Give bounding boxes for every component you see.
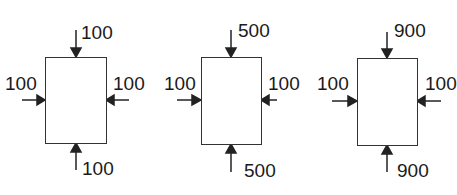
element-box bbox=[201, 57, 262, 145]
right-load-label: 100 bbox=[268, 74, 300, 93]
element-box bbox=[357, 58, 418, 146]
right-load-label: 100 bbox=[425, 74, 457, 93]
left-load-label: 100 bbox=[317, 74, 349, 93]
element-box bbox=[45, 57, 107, 144]
bottom-load-label: 500 bbox=[244, 161, 276, 180]
bottom-load-label: 100 bbox=[82, 159, 114, 178]
panel-2: 500 100 100 500 bbox=[152, 0, 304, 195]
left-load-label: 100 bbox=[164, 74, 196, 93]
top-load-label: 100 bbox=[81, 23, 113, 42]
right-load-label: 100 bbox=[113, 74, 145, 93]
panel-3: 900 100 100 900 bbox=[304, 0, 457, 195]
panel-1: 100 100 100 100 bbox=[0, 0, 152, 195]
bottom-load-label: 900 bbox=[397, 161, 429, 180]
left-load-label: 100 bbox=[5, 74, 37, 93]
top-load-label: 900 bbox=[394, 21, 426, 40]
top-load-label: 500 bbox=[238, 21, 270, 40]
